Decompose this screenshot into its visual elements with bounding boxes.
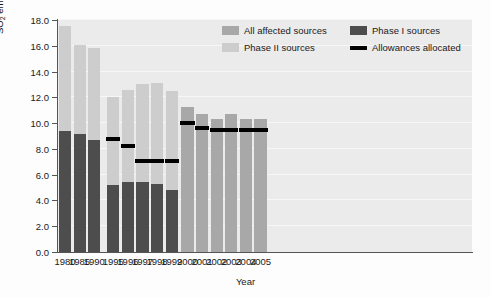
- allowance-marker: [135, 159, 149, 163]
- bar-segment-phase1: [59, 131, 71, 252]
- legend-swatch-icon: [222, 43, 239, 52]
- bar-group[interactable]: [196, 114, 208, 252]
- bar-segment-all-affected: [240, 119, 252, 252]
- y-axis-tick-label: 6.0: [36, 169, 49, 180]
- legend-item: Allowances allocated: [350, 39, 472, 56]
- allowance-marker: [253, 128, 267, 132]
- bar-group[interactable]: [240, 119, 252, 252]
- bar-segment-phase2: [136, 84, 148, 182]
- chart-legend: All affected sourcesPhase I sourcesPhase…: [222, 22, 472, 58]
- legend-swatch-icon: [222, 26, 239, 35]
- legend-label: Phase I sources: [372, 25, 440, 36]
- gridline: [58, 96, 472, 97]
- x-axis-labels: 1980198519901995199619971998199920002001…: [58, 256, 472, 272]
- y-axis-tick-label: 4.0: [36, 195, 49, 206]
- x-axis-tick-label: 2005: [246, 256, 276, 267]
- allowance-marker: [106, 137, 120, 141]
- bar-segment-phase1: [122, 182, 134, 252]
- allowance-marker: [210, 128, 224, 132]
- so2-emissions-chart: SO2 emissions (million tons) 0.02.04.06.…: [0, 0, 491, 297]
- bar-segment-all-affected: [254, 119, 266, 252]
- bar-group[interactable]: [254, 119, 266, 252]
- legend-swatch-icon: [350, 26, 367, 35]
- y-axis-tick-label: 14.0: [31, 66, 50, 77]
- bar-segment-phase2: [74, 45, 86, 135]
- bar-segment-phase2: [166, 91, 178, 190]
- bar-group[interactable]: [136, 84, 148, 252]
- legend-item: Phase II sources: [222, 39, 350, 56]
- bar-segment-all-affected: [211, 119, 223, 252]
- bar-segment-all-affected: [225, 114, 237, 252]
- legend-label: Phase II sources: [244, 42, 315, 53]
- bar-segment-phase2: [59, 26, 71, 130]
- y-axis-tick-label: 8.0: [36, 143, 49, 154]
- x-axis-title: Year: [0, 276, 491, 287]
- y-axis-line: [57, 19, 58, 253]
- bar-group[interactable]: [107, 97, 119, 252]
- allowance-marker: [150, 159, 164, 163]
- allowance-marker: [224, 128, 238, 132]
- bar-group[interactable]: [211, 119, 223, 252]
- bar-segment-phase2: [122, 90, 134, 182]
- allowance-marker: [180, 121, 194, 125]
- bar-segment-phase2: [88, 48, 100, 140]
- y-axis-tick-label: 18.0: [31, 15, 50, 26]
- bar-segment-phase1: [88, 140, 100, 252]
- bar-segment-phase1: [166, 190, 178, 253]
- bar-segment-phase1: [107, 185, 119, 252]
- bar-group[interactable]: [122, 90, 134, 252]
- bar-segment-phase1: [136, 182, 148, 252]
- allowance-marker: [239, 128, 253, 132]
- bar-segment-phase1: [74, 134, 86, 252]
- y-axis-title-suffix: emissions (million tons): [0, 0, 5, 16]
- gridline: [58, 19, 472, 20]
- legend-item: Phase I sources: [350, 22, 472, 39]
- bar-group[interactable]: [181, 107, 193, 252]
- y-axis-tick-label: 2.0: [36, 221, 49, 232]
- bar-segment-phase1: [151, 184, 163, 252]
- bar-segment-phase2: [151, 83, 163, 184]
- bar-group[interactable]: [225, 114, 237, 252]
- legend-item: All affected sources: [222, 22, 350, 39]
- legend-line-icon: [350, 46, 367, 50]
- y-axis-tick-label: 10.0: [31, 118, 50, 129]
- bar-group[interactable]: [59, 26, 71, 252]
- allowance-marker: [195, 126, 209, 130]
- bar-group[interactable]: [88, 48, 100, 252]
- bar-segment-all-affected: [196, 114, 208, 252]
- y-axis-tick-label: 16.0: [31, 40, 50, 51]
- gridline: [58, 71, 472, 72]
- allowance-marker: [165, 159, 179, 163]
- y-axis-ticks: 0.02.04.06.08.010.012.014.016.018.0: [0, 20, 57, 252]
- legend-label: All affected sources: [244, 25, 327, 36]
- bar-group[interactable]: [74, 45, 86, 253]
- bar-segment-all-affected: [181, 107, 193, 252]
- y-axis-tick-label: 0.0: [36, 247, 49, 258]
- allowance-marker: [121, 144, 135, 148]
- x-axis-line: [57, 252, 473, 253]
- bar-group[interactable]: [151, 83, 163, 252]
- y-axis-tick-label: 12.0: [31, 92, 50, 103]
- legend-label: Allowances allocated: [372, 42, 461, 53]
- bar-group[interactable]: [166, 91, 178, 252]
